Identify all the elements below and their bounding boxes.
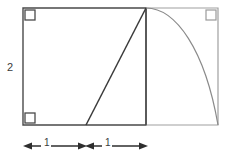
height-label: 2: [7, 62, 13, 73]
right-angle-marker-top-right: [206, 10, 216, 20]
arrow-left-icon: [23, 143, 32, 150]
right-angle-marker-top-left: [25, 10, 35, 20]
geometry-figure: 2 1 1: [0, 0, 232, 156]
triangle-hypotenuse-line: [86, 8, 146, 125]
rectangle-outline: [23, 8, 218, 125]
quarter-arc-curve: [146, 8, 218, 125]
geometry-diagram-svg: [0, 0, 232, 156]
segment-left-label: 1: [44, 138, 50, 148]
arrow-left-mid-icon: [85, 143, 94, 150]
rectangle-right-half: [146, 8, 218, 125]
dimension-line-bottom: [23, 143, 148, 150]
segment-right-label: 1: [105, 138, 111, 148]
rectangle-left-half: [23, 8, 146, 125]
arrow-right-icon: [139, 143, 148, 150]
right-angle-marker-bottom-left: [25, 113, 35, 123]
